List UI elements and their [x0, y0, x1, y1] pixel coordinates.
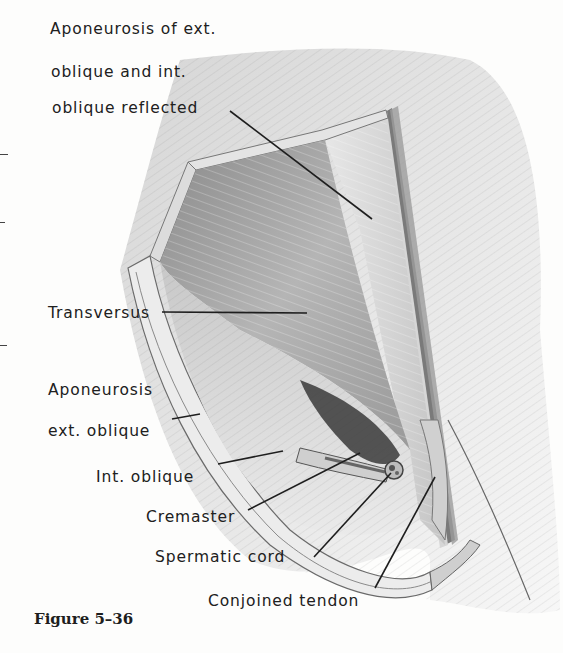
margin-tick — [0, 154, 8, 155]
leader-transversus — [162, 312, 307, 313]
label-aponeurosis-ext-int-line1: Aponeurosis of ext. — [50, 22, 216, 38]
label-aponeurosis-ext-oblique-line2: ext. oblique — [48, 424, 150, 440]
label-transversus: Transversus — [48, 306, 150, 322]
label-cremaster: Cremaster — [146, 510, 235, 526]
label-spermatic-cord: Spermatic cord — [155, 550, 285, 566]
label-conjoined-tendon: Conjoined tendon — [208, 594, 359, 610]
label-aponeurosis-ext-int-line3: oblique reflected — [52, 101, 198, 117]
margin-tick — [0, 345, 7, 346]
label-aponeurosis-ext-int-line2: oblique and int. — [51, 65, 187, 81]
label-aponeurosis-ext-oblique-line1: Aponeurosis — [48, 383, 153, 399]
label-int-oblique: Int. oblique — [96, 470, 194, 486]
figure-caption: Figure 5–36 — [34, 610, 133, 628]
margin-tick — [0, 222, 5, 223]
figure-page: Aponeurosis of ext. oblique and int. obl… — [0, 0, 563, 653]
